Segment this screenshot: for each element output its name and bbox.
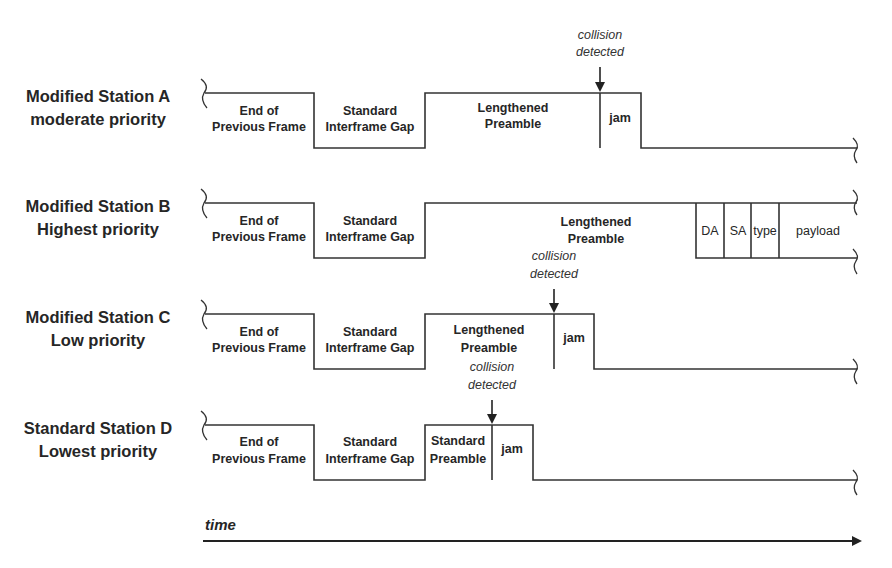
field-type: type bbox=[753, 224, 777, 238]
segment-end-prev-frame: Previous Frame bbox=[212, 341, 306, 355]
segment-end-prev-frame: Previous Frame bbox=[212, 452, 306, 466]
collision-note: collision bbox=[470, 360, 515, 374]
station-a-priority: moderate priority bbox=[30, 110, 167, 128]
segment-preamble: Preamble bbox=[485, 117, 541, 131]
segment-end-prev-frame: End of bbox=[240, 325, 280, 339]
segment-end-prev-frame: End of bbox=[240, 214, 280, 228]
segment-jam: jam bbox=[608, 111, 631, 125]
station-c-row: Modified Station C Low priority End of P… bbox=[26, 249, 858, 384]
segment-jam: jam bbox=[562, 331, 585, 345]
segment-end-prev-frame: End of bbox=[240, 435, 280, 449]
segment-end-prev-frame: End of bbox=[240, 104, 280, 118]
time-axis: time bbox=[203, 516, 860, 541]
station-c-name: Modified Station C bbox=[26, 308, 171, 326]
station-d-priority: Lowest priority bbox=[39, 442, 158, 460]
segment-end-prev-frame: Previous Frame bbox=[212, 230, 306, 244]
segment-interframe-gap: Standard bbox=[343, 104, 397, 118]
segment-interframe-gap: Standard bbox=[343, 214, 397, 228]
time-axis-label: time bbox=[205, 516, 236, 533]
segment-interframe-gap: Interframe Gap bbox=[326, 120, 415, 134]
segment-interframe-gap: Interframe Gap bbox=[326, 230, 415, 244]
station-a-name: Modified Station A bbox=[26, 87, 170, 105]
station-a-row: Modified Station A moderate priority End… bbox=[26, 28, 858, 163]
station-c-priority: Low priority bbox=[51, 331, 146, 349]
station-b-name: Modified Station B bbox=[26, 197, 171, 215]
station-b-row: Modified Station B Highest priority End … bbox=[26, 189, 858, 274]
collision-note: collision bbox=[532, 249, 577, 263]
segment-preamble: Standard bbox=[431, 434, 485, 448]
collision-note: collision bbox=[578, 28, 623, 42]
brace-end-icon bbox=[853, 138, 857, 163]
collision-note: detected bbox=[530, 267, 579, 281]
brace-end-icon bbox=[853, 470, 857, 495]
field-payload: payload bbox=[796, 224, 840, 238]
station-d-name: Standard Station D bbox=[24, 419, 173, 437]
collision-note: detected bbox=[468, 378, 517, 392]
segment-interframe-gap: Interframe Gap bbox=[326, 341, 415, 355]
brace-end-icon bbox=[853, 249, 857, 274]
field-sa: SA bbox=[730, 224, 747, 238]
segment-preamble: Lengthened bbox=[478, 101, 549, 115]
station-d-row: Standard Station D Lowest priority End o… bbox=[24, 360, 858, 495]
segment-preamble: Preamble bbox=[461, 341, 517, 355]
segment-end-prev-frame: Previous Frame bbox=[212, 120, 306, 134]
segment-preamble: Lengthened bbox=[561, 215, 632, 229]
collision-note: detected bbox=[576, 45, 625, 59]
segment-interframe-gap: Standard bbox=[343, 325, 397, 339]
segment-jam: jam bbox=[500, 442, 523, 456]
segment-preamble: Preamble bbox=[430, 452, 486, 466]
priority-timing-diagram: Modified Station A moderate priority End… bbox=[0, 0, 892, 568]
segment-preamble: Preamble bbox=[568, 232, 624, 246]
segment-preamble: Lengthened bbox=[454, 323, 525, 337]
segment-interframe-gap: Interframe Gap bbox=[326, 452, 415, 466]
field-da: DA bbox=[701, 224, 719, 238]
segment-interframe-gap: Standard bbox=[343, 435, 397, 449]
station-b-priority: Highest priority bbox=[37, 220, 160, 238]
brace-end-icon bbox=[853, 359, 857, 384]
